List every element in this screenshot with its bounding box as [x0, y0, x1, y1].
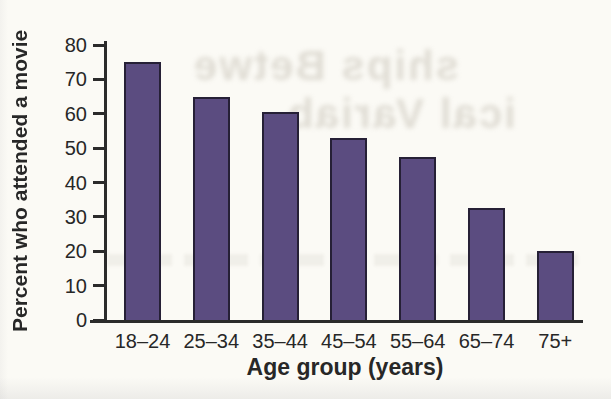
bar: [262, 112, 299, 320]
y-axis-tick-label: 50: [43, 135, 87, 161]
x-axis-tick-label: 45–54: [315, 329, 383, 353]
y-axis-tick-label: 0: [43, 307, 87, 333]
bar: [537, 251, 574, 320]
bar: [468, 208, 505, 320]
y-axis-tick: [93, 250, 104, 253]
y-axis-tick-label: 40: [43, 170, 87, 196]
y-axis-tick-label: 30: [43, 204, 87, 230]
y-axis-tick: [93, 181, 104, 184]
x-axis-title: Age group (years): [107, 354, 583, 381]
x-axis-tick-label: 35–44: [246, 329, 314, 353]
y-axis-tick-label: 60: [43, 101, 87, 127]
y-axis-title: Percent who attended a movie: [6, 35, 34, 327]
y-axis-tick-label: 80: [43, 32, 87, 58]
y-axis-tick: [93, 215, 104, 218]
y-axis-line: [104, 41, 107, 323]
y-axis-tick: [93, 284, 104, 287]
y-axis-tick: [93, 147, 104, 150]
y-axis-tick: [93, 44, 104, 47]
bar: [399, 157, 436, 320]
x-axis-tick-label: 75+: [521, 329, 589, 353]
x-axis-tick-label: 18–24: [109, 329, 177, 353]
y-axis-tick: [93, 78, 104, 81]
y-axis-tick: [93, 319, 104, 322]
y-axis-tick: [93, 112, 104, 115]
bar-chart-figure: Percent who attended a movie 01020304050…: [0, 0, 611, 399]
y-axis-tick-label: 10: [43, 273, 87, 299]
y-axis-tick-label: 20: [43, 238, 87, 264]
y-axis-tick-label: 70: [43, 66, 87, 92]
x-axis-line: [90, 320, 583, 323]
scanned-textbook-page: ships Betwe ical Variab Percent who atte…: [0, 0, 611, 399]
x-axis-tick-label: 25–34: [177, 329, 245, 353]
bar: [330, 138, 367, 320]
bar: [193, 97, 230, 320]
plot-area: 0102030405060708018–2425–3435–4445–5455–…: [107, 45, 583, 320]
bar: [124, 62, 161, 320]
x-axis-tick-label: 55–64: [384, 329, 452, 353]
x-axis-tick-label: 65–74: [453, 329, 521, 353]
